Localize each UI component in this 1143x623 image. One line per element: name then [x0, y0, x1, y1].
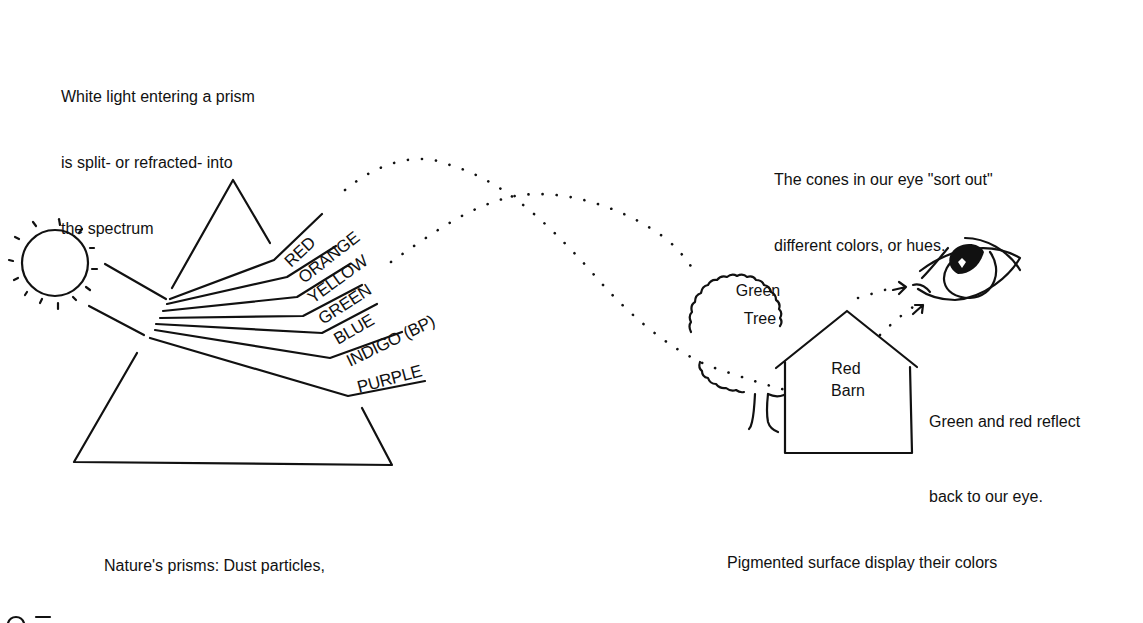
- figure-number-fragment: [8, 617, 50, 623]
- diagram-canvas: RED ORANGE YELLOW GREEN BLUE INDIGO (BP)…: [0, 0, 1143, 623]
- dotted-path-green: [391, 194, 695, 272]
- sun-icon: [9, 219, 97, 309]
- tree-label-line2: Tree: [744, 310, 776, 327]
- tree-shape: Green Tree: [690, 275, 785, 432]
- dotted-path-tree-to-eye: [858, 286, 898, 298]
- tree-label-line1: Green: [736, 282, 780, 299]
- light-paths: [345, 159, 913, 391]
- pupil: [949, 244, 984, 274]
- barn-label-line1: Red: [831, 360, 860, 377]
- arrow-right-icon: [893, 282, 906, 294]
- spectrum-rays: [150, 214, 425, 396]
- diagram-stage: White light entering a prism is split- o…: [0, 0, 1143, 623]
- white-light-beam: [89, 264, 166, 335]
- arrow-icons: [893, 282, 923, 314]
- barn-shape: Red Barn: [776, 311, 917, 453]
- barn-label-line2: Barn: [831, 382, 865, 399]
- arrow-up-right-icon: [913, 305, 923, 314]
- dotted-path-red: [345, 159, 790, 391]
- ray-label-purple: PURPLE: [355, 361, 424, 396]
- eye-icon: [913, 238, 1020, 300]
- dotted-path-barn-to-eye: [880, 307, 913, 335]
